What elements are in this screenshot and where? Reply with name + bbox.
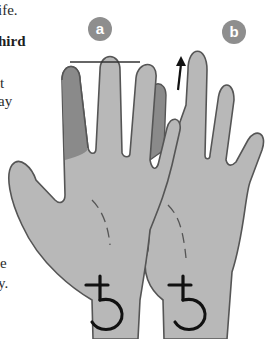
label-b: b: [222, 20, 246, 44]
label-a: a: [88, 17, 112, 41]
hand-a: [9, 57, 180, 339]
palmistry-illustration: [0, 0, 270, 339]
up-arrow-icon: [176, 56, 186, 90]
